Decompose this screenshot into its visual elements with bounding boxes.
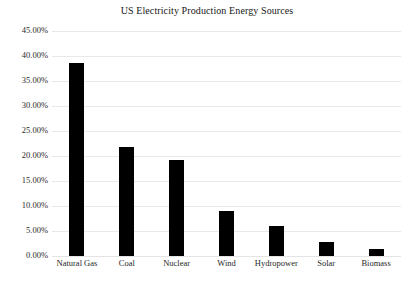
x-axis-tick-label: Solar — [317, 258, 335, 269]
x-axis-tick-label: Nuclear — [163, 258, 190, 269]
x-axis-tick-labels: Natural GasCoalNuclearWindHydropowerSola… — [52, 258, 401, 278]
y-axis-tick-label: 35.00% — [4, 76, 48, 85]
x-axis-tick-label: Coal — [119, 258, 135, 269]
y-axis-tick-label: 5.00% — [4, 226, 48, 235]
bar-solar — [319, 242, 334, 257]
y-axis-tick-label: 30.00% — [4, 101, 48, 110]
y-axis-tick-label: 15.00% — [4, 176, 48, 185]
bar-chart: US Electricity Production Energy Sources… — [0, 0, 414, 283]
bar-coal — [119, 147, 134, 257]
bar-biomass — [369, 249, 384, 257]
y-axis-tick-labels: 0.00%5.00%10.00%15.00%20.00%25.00%30.00%… — [0, 0, 48, 283]
chart-title: US Electricity Production Energy Sources — [0, 5, 414, 17]
bars-layer — [52, 31, 401, 256]
y-axis-tick-label: 10.00% — [4, 201, 48, 210]
bar-hydropower — [269, 226, 284, 257]
bar-wind — [219, 211, 234, 257]
gridline — [52, 256, 401, 257]
y-axis-tick-label: 25.00% — [4, 126, 48, 135]
y-axis-tick-label: 0.00% — [4, 251, 48, 260]
y-axis-tick-label: 40.00% — [4, 51, 48, 60]
x-axis-tick-label: Natural Gas — [57, 258, 98, 269]
x-axis-tick-label: Hydropower — [255, 258, 298, 269]
bar-nuclear — [169, 160, 184, 256]
bar-natural-gas — [69, 63, 84, 257]
y-axis-tick-label: 45.00% — [4, 26, 48, 35]
y-axis-tick-label: 20.00% — [4, 151, 48, 160]
x-axis-tick-label: Biomass — [361, 258, 390, 269]
x-axis-tick-label: Wind — [217, 258, 236, 269]
